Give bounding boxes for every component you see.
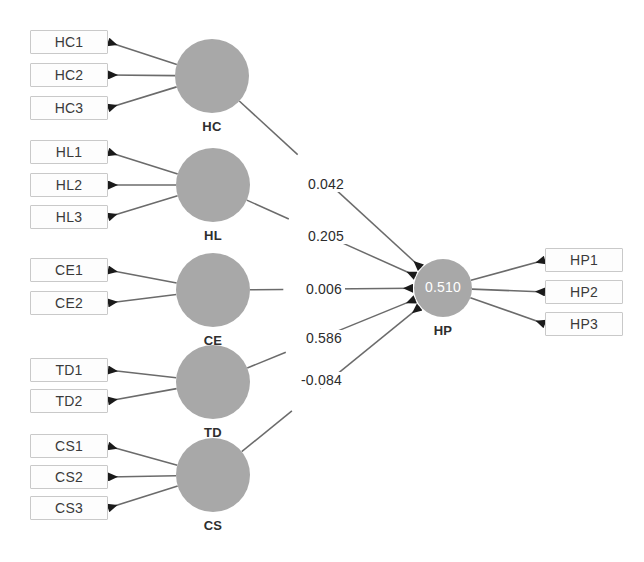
indicator-box-hp3: HP3	[545, 312, 623, 336]
indicator-box-hc2: HC2	[30, 63, 108, 87]
structural-path-hl-to-hp-segment-1	[247, 200, 289, 219]
measurement-arrow-cs-cs1	[108, 446, 177, 465]
indicator-box-cs1: CS1	[30, 434, 108, 458]
coefficient-hc-hp: 0.042	[305, 176, 347, 192]
indicator-box-hl1: HL1	[30, 140, 108, 164]
measurement-arrow-hl-hl1	[108, 152, 178, 174]
measurement-arrow-cs-cs3	[108, 486, 178, 508]
construct-circle-ce	[176, 253, 250, 327]
measurement-arrow-ce-ce1	[108, 270, 177, 283]
construct-label-td: TD	[173, 425, 253, 440]
measurement-arrow-hc-hc3	[108, 87, 177, 108]
indicator-box-td1: TD1	[30, 358, 108, 382]
indicator-box-cs3: CS3	[30, 496, 108, 520]
measurement-arrow-hc-hc2	[108, 75, 175, 76]
measurement-arrow-td-td2	[108, 389, 177, 401]
construct-circle-hl	[176, 148, 250, 222]
construct-circle-hc	[175, 39, 249, 113]
construct-label-ce: CE	[173, 333, 253, 348]
measurement-arrow-td-td1	[108, 370, 176, 378]
indicator-box-cs2: CS2	[30, 465, 108, 489]
construct-circles	[175, 39, 472, 512]
measurement-arrow-hc-hc1	[108, 42, 177, 65]
indicator-box-hp1: HP1	[545, 248, 623, 272]
measurement-arrow-cs-cs2	[108, 476, 176, 477]
sem-path-diagram: HC1HC2HC3HL1HL2HL3CE1CE2TD1TD2CS1CS2CS3H…	[0, 0, 644, 562]
indicator-box-hc3: HC3	[30, 96, 108, 120]
indicator-box-ce1: CE1	[30, 258, 108, 282]
structural-path-td-to-hp-segment-1	[247, 352, 286, 368]
construct-circle-hp	[414, 259, 472, 317]
indicator-box-ce2: CE2	[30, 291, 108, 315]
structural-arrows	[239, 101, 421, 452]
construct-label-hp: HP	[403, 323, 483, 338]
indicator-box-td2: TD2	[30, 389, 108, 413]
measurement-arrow-hp-hp3	[470, 298, 545, 324]
measurement-arrow-hp-hp2	[472, 289, 545, 292]
construct-circle-cs	[176, 438, 250, 512]
construct-label-hl: HL	[173, 228, 253, 243]
measurement-arrow-ce-ce2	[108, 295, 176, 303]
coefficient-td-hp: 0.586	[303, 330, 345, 346]
measurement-arrow-hp-hp1	[471, 260, 545, 280]
indicator-box-hc1: HC1	[30, 30, 108, 54]
coefficient-cs-hp: -0.084	[298, 372, 345, 388]
indicator-box-hp2: HP2	[545, 280, 623, 304]
indicator-box-hl2: HL2	[30, 173, 108, 197]
construct-circle-td	[176, 345, 250, 419]
coefficient-hl-hp: 0.205	[305, 228, 347, 244]
construct-label-cs: CS	[173, 518, 253, 533]
indicator-box-hl3: HL3	[30, 205, 108, 229]
construct-label-hc: HC	[172, 119, 252, 134]
coefficient-ce-hp: 0.006	[303, 281, 345, 297]
measurement-arrow-hl-hl3	[108, 196, 178, 217]
